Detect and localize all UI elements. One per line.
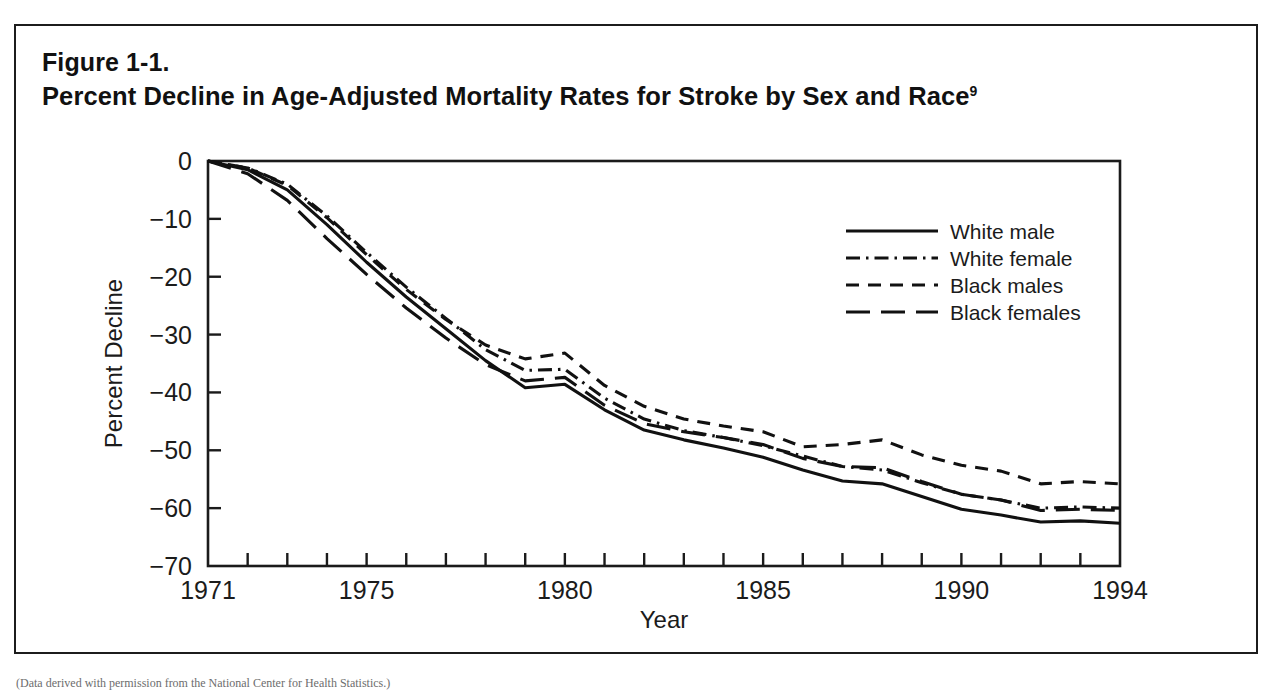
chart-legend: White maleWhite femaleBlack malesBlack f… xyxy=(846,220,1081,324)
series-line-white-female xyxy=(208,161,1120,508)
x-axis-tick-label: 1990 xyxy=(934,576,990,604)
y-axis-title-group: Percent Decline xyxy=(100,279,127,448)
source-caption: (Data derived with permission from the N… xyxy=(16,676,1276,691)
y-axis-tick-label: −30 xyxy=(150,321,192,349)
chart-series xyxy=(208,161,1120,523)
y-axis-tick-label: −50 xyxy=(150,436,192,464)
y-axis-tick-label: −20 xyxy=(150,263,192,291)
y-axis-tick-label: 0 xyxy=(178,147,192,175)
x-axis-tick-label: 1971 xyxy=(180,576,236,604)
y-axis-title: Percent Decline xyxy=(100,279,127,448)
y-axis-tick-label: −60 xyxy=(150,494,192,522)
series-line-black-females xyxy=(208,161,1120,510)
x-axis-tick-label: 1975 xyxy=(339,576,395,604)
figure-frame: Figure 1-1. Percent Decline in Age-Adjus… xyxy=(14,24,1258,654)
y-axis-tick-label: −10 xyxy=(150,205,192,233)
chart-plot-area: White maleWhite femaleBlack malesBlack f… xyxy=(16,26,1260,656)
x-axis-tick-label: 1985 xyxy=(735,576,791,604)
legend-label-white-female: White female xyxy=(950,247,1073,270)
x-axis-title: Year xyxy=(640,606,689,633)
x-axis-tick-label: 1980 xyxy=(537,576,593,604)
x-axis-tick-label: 1994 xyxy=(1092,576,1148,604)
line-chart: White maleWhite femaleBlack malesBlack f… xyxy=(16,26,1260,656)
legend-label-white-male: White male xyxy=(950,220,1055,243)
legend-label-black-females: Black females xyxy=(950,301,1081,324)
y-axis-tick-label: −40 xyxy=(150,378,192,406)
legend-label-black-males: Black males xyxy=(950,274,1063,297)
